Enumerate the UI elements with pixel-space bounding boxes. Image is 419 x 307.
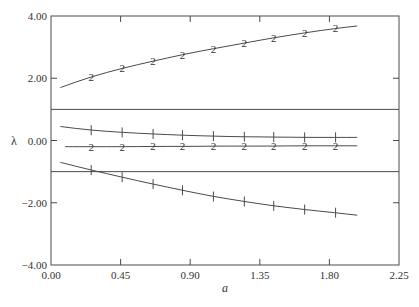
- series-marker-2: 2: [150, 55, 156, 67]
- x-tick-label: 2.25: [389, 269, 409, 281]
- series-marker-2: 2: [119, 141, 125, 153]
- x-tick-label: 1.80: [320, 269, 340, 281]
- y-tick-label: −2.00: [22, 197, 48, 209]
- series-marker-2: 2: [180, 49, 186, 61]
- y-axis-label: λ: [11, 134, 17, 148]
- series-line: [60, 162, 357, 215]
- series-marker-2: 2: [211, 43, 217, 55]
- series-marker-2: 2: [211, 140, 217, 152]
- y-tick-label: −4.00: [22, 259, 48, 271]
- x-tick-label: 0.90: [181, 269, 201, 281]
- curve-2-middle: 222222222: [65, 140, 357, 153]
- plot-frame: [51, 16, 399, 265]
- series-marker-2: 2: [302, 27, 308, 39]
- series-marker-2: 2: [333, 140, 339, 152]
- x-axis: 0.000.450.901.351.802.25: [41, 16, 409, 281]
- curve-1-lower: [60, 162, 357, 217]
- series-marker-2: 2: [242, 37, 248, 49]
- y-tick-label: 2.00: [28, 72, 48, 84]
- y-tick-label: 4.00: [28, 10, 48, 22]
- x-tick-label: 0.45: [111, 269, 131, 281]
- series-marker-2: 2: [150, 140, 156, 152]
- series-marker-2: 2: [271, 32, 277, 44]
- series-line: [60, 26, 357, 88]
- plot-border: [51, 16, 399, 265]
- series-marker-2: 2: [180, 140, 186, 152]
- series-marker-2: 2: [271, 140, 277, 152]
- eigenvalue-chart: 222222222222222222 0.000.450.901.351.802…: [0, 0, 419, 307]
- x-tick-label: 1.35: [250, 269, 270, 281]
- series-line: [60, 127, 357, 138]
- series-marker-2: 2: [302, 140, 308, 152]
- series-marker-2: 2: [88, 141, 94, 153]
- curve-2-upper: 222222222: [60, 22, 357, 87]
- data-series: 222222222222222222: [60, 22, 357, 217]
- y-tick-label: 0.00: [28, 135, 48, 147]
- series-marker-2: 2: [333, 22, 339, 34]
- x-axis-label: a: [222, 281, 228, 295]
- series-marker-2: 2: [119, 62, 125, 74]
- curve-1-upper: [60, 125, 357, 142]
- series-marker-2: 2: [88, 71, 94, 83]
- series-marker-2: 2: [242, 140, 248, 152]
- reference-lines: [51, 109, 399, 171]
